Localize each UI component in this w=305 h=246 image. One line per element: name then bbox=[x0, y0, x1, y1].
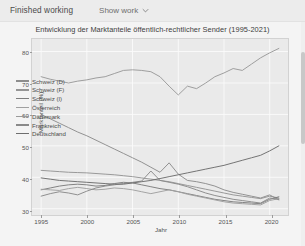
legend-color-swatch bbox=[16, 116, 29, 117]
x-tick-label: 2005 bbox=[126, 218, 140, 225]
legend-item[interactable]: Schweiz (D) bbox=[16, 77, 66, 85]
plot-svg bbox=[32, 39, 288, 215]
legend-color-swatch bbox=[16, 133, 29, 134]
scrollbar-thumb[interactable] bbox=[301, 52, 305, 144]
x-tick-mark bbox=[179, 215, 180, 218]
legend-item[interactable]: Dänemark bbox=[16, 112, 66, 120]
x-tick-mark bbox=[133, 215, 134, 218]
x-tick-label: 2010 bbox=[173, 218, 187, 225]
y-tick-label: 50 bbox=[22, 144, 29, 151]
x-tick-label: 2000 bbox=[80, 218, 94, 225]
legend-color-swatch bbox=[16, 98, 29, 99]
legend-label: Schweiz (I) bbox=[32, 95, 62, 102]
legend-label: Schweiz (F) bbox=[32, 86, 64, 93]
show-work-toggle[interactable]: Show work bbox=[99, 6, 149, 15]
y-tick-label: 40 bbox=[22, 175, 29, 182]
legend-item[interactable]: Deutschland bbox=[16, 130, 66, 138]
legend-item[interactable]: Schweiz (F) bbox=[16, 86, 66, 94]
x-tick-mark bbox=[272, 215, 273, 218]
x-tick-mark bbox=[41, 215, 42, 218]
legend-label: Frankreich bbox=[32, 122, 61, 129]
x-tick-mark bbox=[226, 215, 227, 218]
legend-label: Schweiz (D) bbox=[32, 78, 65, 85]
y-tick-label: 80 bbox=[22, 48, 29, 55]
x-axis-label: Jahr bbox=[32, 226, 290, 233]
chevron-down-icon bbox=[142, 7, 149, 14]
assistant-status-bar: Finished working Show work bbox=[0, 0, 305, 22]
y-tick-mark bbox=[30, 211, 33, 212]
y-tick-mark bbox=[30, 52, 33, 53]
legend-label: Österreich bbox=[32, 104, 60, 111]
y-tick-mark bbox=[30, 147, 33, 148]
legend-color-swatch bbox=[16, 89, 29, 90]
assistant-chart-panel: Finished working Show work Entwicklung d… bbox=[0, 0, 305, 246]
scrollbar-track[interactable] bbox=[301, 22, 305, 246]
legend-label: Deutschland bbox=[32, 130, 66, 137]
chart-legend: Schweiz (D)Schweiz (F)Schweiz (I)Österre… bbox=[14, 76, 68, 139]
legend-color-swatch bbox=[16, 124, 29, 125]
x-tick-mark bbox=[87, 215, 88, 218]
legend-item[interactable]: Frankreich bbox=[16, 121, 66, 129]
show-work-label: Show work bbox=[99, 6, 138, 15]
chart-title: Entwicklung der Marktanteile öffentlich-… bbox=[0, 25, 305, 34]
x-tick-label: 2020 bbox=[265, 218, 279, 225]
y-tick-label: 30 bbox=[22, 207, 29, 214]
x-tick-label: 1995 bbox=[34, 218, 48, 225]
legend-item[interactable]: Österreich bbox=[16, 103, 66, 111]
legend-label: Dänemark bbox=[32, 113, 60, 120]
plot-area: Marktanteil (%) Jahr 3040506070801995200… bbox=[31, 38, 289, 216]
chart-figure: Entwicklung der Marktanteile öffentlich-… bbox=[0, 22, 305, 246]
legend-color-swatch bbox=[16, 107, 29, 108]
status-label: Finished working bbox=[10, 6, 73, 15]
legend-item[interactable]: Schweiz (I) bbox=[16, 95, 66, 103]
y-tick-mark bbox=[30, 179, 33, 180]
legend-color-swatch bbox=[16, 80, 29, 81]
x-tick-label: 2015 bbox=[219, 218, 233, 225]
